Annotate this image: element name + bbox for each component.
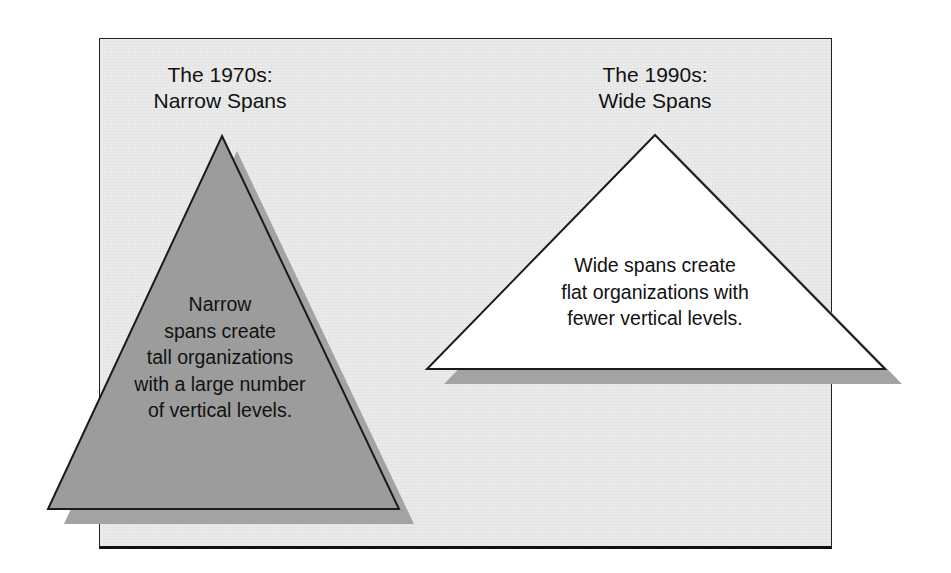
heading-era-1990s: The 1990s:	[525, 62, 785, 88]
caption-line: Wide spans create	[525, 252, 785, 279]
wide-spans-heading: The 1990s: Wide Spans	[525, 62, 785, 114]
caption-line: flat organizations with	[525, 279, 785, 306]
heading-era-1970s: The 1970s:	[90, 62, 350, 88]
span-of-control-diagram: The 1970s: Narrow Spans The 1990s: Wide …	[0, 0, 951, 573]
heading-wide-spans: Wide Spans	[525, 88, 785, 114]
caption-line: with a large number	[100, 371, 340, 398]
narrow-spans-heading: The 1970s: Narrow Spans	[90, 62, 350, 114]
caption-line: Narrow	[100, 291, 340, 318]
caption-line: spans create	[100, 318, 340, 345]
narrow-triangle-caption: Narrow spans create tall organizations w…	[100, 291, 340, 424]
caption-line: tall organizations	[100, 344, 340, 371]
caption-line: of vertical levels.	[100, 397, 340, 424]
heading-narrow-spans: Narrow Spans	[90, 88, 350, 114]
caption-line: fewer vertical levels.	[525, 305, 785, 332]
wide-triangle-caption: Wide spans create flat organizations wit…	[525, 252, 785, 332]
